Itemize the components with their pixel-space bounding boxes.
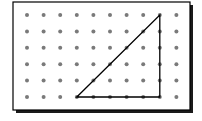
peg-dot	[125, 13, 129, 17]
peg-dot	[108, 13, 112, 17]
peg-dot	[125, 29, 129, 33]
peg-dot	[58, 29, 62, 33]
peg-dot	[91, 13, 95, 17]
peg-dot	[58, 46, 62, 50]
peg-dot	[75, 29, 79, 33]
peg-dot	[141, 62, 145, 66]
peg-dot	[58, 13, 62, 17]
peg-dot	[125, 79, 129, 83]
peg-dot	[75, 79, 79, 83]
peg-dot	[125, 62, 129, 66]
peg-dot	[141, 46, 145, 50]
peg-dot	[174, 46, 178, 50]
peg-dot	[75, 62, 79, 66]
board-frame	[13, 2, 190, 110]
peg-dot	[174, 62, 178, 66]
peg-dot	[58, 62, 62, 66]
peg-dot	[25, 46, 29, 50]
peg-dot	[42, 29, 46, 33]
peg-dot	[108, 79, 112, 83]
peg-dot	[42, 46, 46, 50]
peg-dot	[174, 79, 178, 83]
peg-dot	[25, 79, 29, 83]
peg-dot	[91, 29, 95, 33]
peg-dot	[25, 95, 29, 99]
peg-dot	[75, 13, 79, 17]
peg-dot	[174, 95, 178, 99]
peg-dot	[42, 79, 46, 83]
peg-dot	[174, 13, 178, 17]
peg-dot	[58, 79, 62, 83]
peg-dot	[58, 95, 62, 99]
peg-dot	[174, 29, 178, 33]
peg-dot	[42, 13, 46, 17]
peg-dot	[141, 13, 145, 17]
geoboard-diagram	[0, 0, 202, 121]
peg-dot	[25, 29, 29, 33]
peg-dot	[108, 29, 112, 33]
peg-dot	[25, 62, 29, 66]
peg-dot	[91, 62, 95, 66]
peg-dot	[91, 46, 95, 50]
peg-dot	[42, 95, 46, 99]
peg-dot	[108, 46, 112, 50]
peg-dot	[141, 79, 145, 83]
peg-dot	[25, 13, 29, 17]
peg-dot	[42, 62, 46, 66]
peg-dot	[75, 46, 79, 50]
